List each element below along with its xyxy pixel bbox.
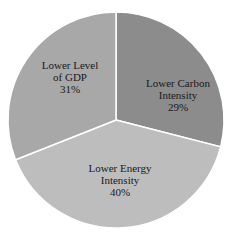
- label-energy-line2: Intensity: [85, 174, 155, 186]
- label-gdp: Lower Level of GDP 31%: [35, 59, 105, 95]
- label-carbon-line2: Intensity: [143, 89, 213, 101]
- label-energy: Lower Energy Intensity 40%: [85, 162, 155, 198]
- label-energy-pct: 40%: [85, 186, 155, 198]
- label-energy-line1: Lower Energy: [85, 162, 155, 174]
- label-gdp-line1: Lower Level: [35, 59, 105, 71]
- label-carbon-pct: 29%: [143, 101, 213, 113]
- label-carbon: Lower Carbon Intensity 29%: [143, 77, 213, 113]
- label-gdp-pct: 31%: [35, 83, 105, 95]
- label-gdp-line2: of GDP: [35, 71, 105, 83]
- label-carbon-line1: Lower Carbon: [143, 77, 213, 89]
